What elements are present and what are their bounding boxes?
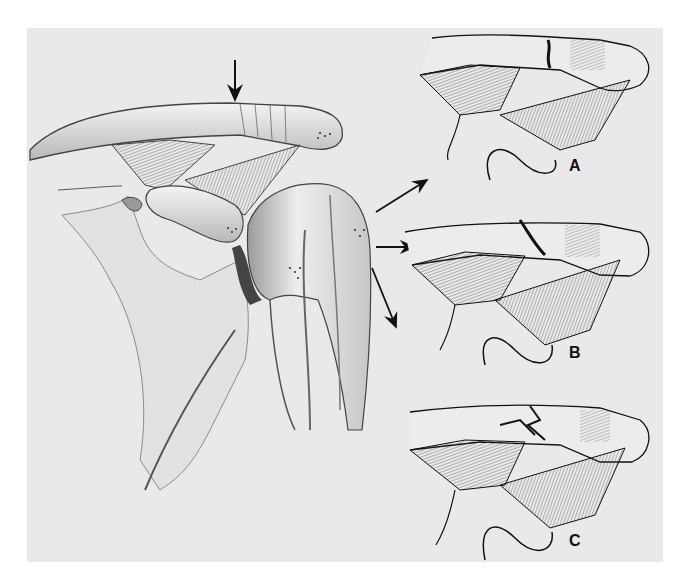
- panel-label-c: C: [569, 532, 581, 550]
- anatomy-illustration: [0, 0, 689, 582]
- panel-a-drawing: [420, 35, 649, 180]
- arrow-to-panel-a-icon: [376, 180, 427, 212]
- panel-label-b: B: [569, 344, 581, 362]
- arrow-to-panel-c-icon: [372, 268, 396, 327]
- panel-label-a: A: [569, 157, 581, 175]
- panel-b-drawing: [405, 220, 649, 365]
- panel-c-drawing: [410, 405, 649, 560]
- main-shoulder-view: [30, 60, 371, 490]
